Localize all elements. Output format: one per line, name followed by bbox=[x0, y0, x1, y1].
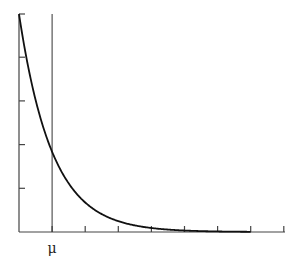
mu-label: μ bbox=[48, 240, 57, 256]
chart-canvas bbox=[0, 0, 297, 269]
decay-curve bbox=[19, 14, 251, 232]
